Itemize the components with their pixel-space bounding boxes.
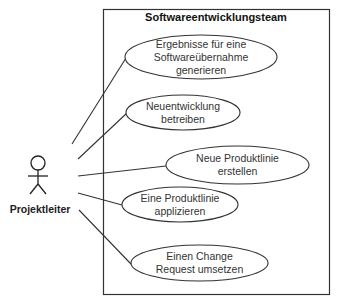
- system-boundary-title: Softwareentwicklungsteam: [103, 11, 329, 23]
- association-line-1: [72, 58, 126, 144]
- use-case-label-line: Neue Produktlinie: [166, 152, 309, 165]
- use-case-label-line: Ergebnisse für eine: [125, 38, 277, 51]
- use-case-label-line: betreiben: [126, 113, 240, 126]
- use-case-label-line: Request umsetzen: [131, 263, 268, 276]
- use-case-label-line: Eine Produktlinie: [122, 192, 238, 205]
- use-case-label-2: Neuentwicklung betreiben: [126, 100, 240, 126]
- actor-icon: [28, 156, 48, 194]
- association-line-3: [78, 166, 166, 176]
- use-case-label-line: Einen Change: [131, 250, 268, 263]
- use-case-label-line: applizieren: [122, 205, 238, 218]
- use-case-label-line: generieren: [125, 64, 277, 77]
- use-case-label-3: Neue Produktlinie erstellen: [166, 152, 309, 178]
- use-case-label-5: Einen Change Request umsetzen: [131, 250, 268, 276]
- association-line-2: [78, 113, 127, 159]
- use-case-label-line: erstellen: [166, 165, 309, 178]
- association-line-5: [79, 210, 131, 264]
- use-case-label-4: Eine Produktlinie applizieren: [122, 192, 238, 218]
- actor-label: Projektleiter: [5, 203, 75, 215]
- use-case-label-line: Softwareübernahme: [125, 51, 277, 64]
- association-line-4: [78, 193, 122, 205]
- use-case-label-1: Ergebnisse für eine Softwareübernahme ge…: [125, 38, 277, 77]
- use-case-label-line: Neuentwicklung: [126, 100, 240, 113]
